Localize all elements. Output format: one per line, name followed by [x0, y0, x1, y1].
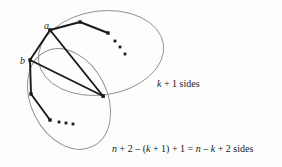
lower-region-label: n + 2 – (k + 1) + 1 = n – k + 2 sides: [112, 144, 253, 154]
lower-region-label-text-1: + 2 – (: [117, 143, 146, 154]
edge-a-convergence: [50, 30, 103, 96]
vertex-label-a: a: [44, 21, 49, 31]
lower-region-label-text-2: + 1) + 1 =: [150, 143, 195, 154]
upper-region-ellipse: [33, 3, 169, 104]
figure-container: a b k + 1 sides n + 2 – (k + 1) + 1 = n …: [0, 0, 282, 167]
upper-region-label-text: + 1 sides: [161, 78, 199, 89]
vertex-label-b: b: [20, 56, 25, 66]
lower-region-label-text-4: + 2 sides: [215, 143, 253, 154]
diagram-canvas: [0, 0, 282, 167]
lower-region-label-text-3: –: [201, 143, 211, 154]
lower-chain-ellipsis-dots: [58, 121, 75, 126]
upper-chain-ellipsis-dots: [114, 40, 127, 56]
upper-region-label: k + 1 sides: [157, 79, 200, 89]
